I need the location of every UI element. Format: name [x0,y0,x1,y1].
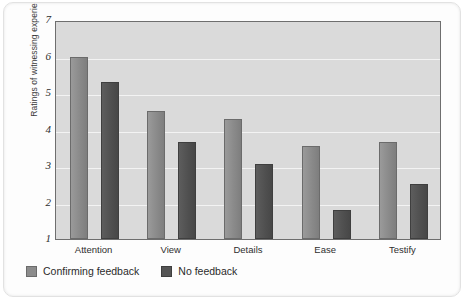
plot-area [55,21,441,240]
y-axis-tick-label: 2 [25,196,51,208]
x-axis-tick-label: Ease [287,244,364,255]
bar [379,142,397,239]
legend-swatch-icon [161,266,172,277]
y-axis-tick-label: 4 [25,123,51,135]
bar [333,210,351,239]
legend-item[interactable]: Confirming feedback [26,265,139,277]
bar [70,57,88,240]
legend-label: Confirming feedback [43,265,139,277]
legend-swatch-icon [26,266,37,277]
x-axis-tick-label: Attention [55,244,132,255]
bar-group [288,22,365,239]
bar [302,146,320,239]
y-axis-tick-label: 7 [25,13,51,25]
x-axis-tick-label: Testify [364,244,441,255]
y-axis-tick-label: 3 [25,159,51,171]
chart-card: Ratings of witnessing experience 7654321… [3,2,461,297]
bar [101,82,119,239]
bar-group [133,22,210,239]
y-axis-tick-labels: 7654321 [21,21,51,240]
bar [255,164,273,239]
x-axis-tick-label: View [132,244,209,255]
y-axis-tick-label: 6 [25,50,51,62]
bar [224,119,242,239]
bar-group [210,22,287,239]
bar [410,184,428,239]
chart-legend: Confirming feedbackNo feedback [26,262,237,280]
bar [178,142,196,239]
y-axis-tick-label: 1 [25,232,51,244]
legend-item[interactable]: No feedback [161,265,237,277]
legend-label: No feedback [178,265,237,277]
bar [147,111,165,239]
x-axis-tick-labels: AttentionViewDetailsEaseTestify [55,244,441,260]
bar-group [365,22,442,239]
x-axis-tick-label: Details [209,244,286,255]
y-axis-tick-label: 5 [25,86,51,98]
bar-group [56,22,133,239]
